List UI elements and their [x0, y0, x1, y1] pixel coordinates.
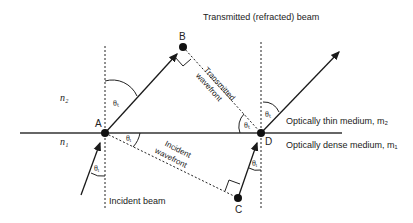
point-b — [179, 43, 187, 51]
right-angle-b — [175, 57, 191, 66]
theta-i-label-d: θᵢ — [252, 160, 257, 168]
point-a-label: A — [95, 119, 102, 129]
point-a — [101, 129, 109, 137]
n2-label: n₂ — [60, 93, 68, 103]
n1-label: n₁ — [60, 137, 68, 147]
angle-arc-theta-i-d — [249, 168, 261, 170]
refracted-ray-ab — [105, 54, 177, 133]
theta-t-label-d: θₜ — [265, 111, 271, 119]
angle-arc-theta-t-a — [105, 80, 137, 96]
thin-medium-label: Optically thin medium, m₂ — [286, 117, 388, 126]
angle-arc-wavefront-a — [133, 133, 140, 147]
theta-t-label-a: θₜ — [113, 100, 119, 108]
incident-beam-label: Incident beam — [109, 197, 166, 206]
point-c-label: C — [235, 205, 242, 215]
right-angle-c — [225, 180, 240, 191]
angle-arc-theta-i-a — [91, 173, 105, 176]
transmitted-beam-label: Transmitted (refracted) beam — [203, 13, 319, 22]
point-c — [234, 194, 242, 202]
point-d — [257, 129, 265, 137]
theta-t-label-wavefront-d: θₜ — [244, 122, 250, 130]
point-d-label: D — [265, 137, 272, 147]
theta-i-label-wavefront-a: θᵢ — [126, 135, 131, 143]
refraction-diagram — [0, 0, 413, 223]
point-b-label: B — [179, 32, 186, 42]
theta-i-label-a: θᵢ — [94, 165, 99, 173]
dense-medium-label: Optically dense medium, m₁ — [286, 141, 398, 150]
